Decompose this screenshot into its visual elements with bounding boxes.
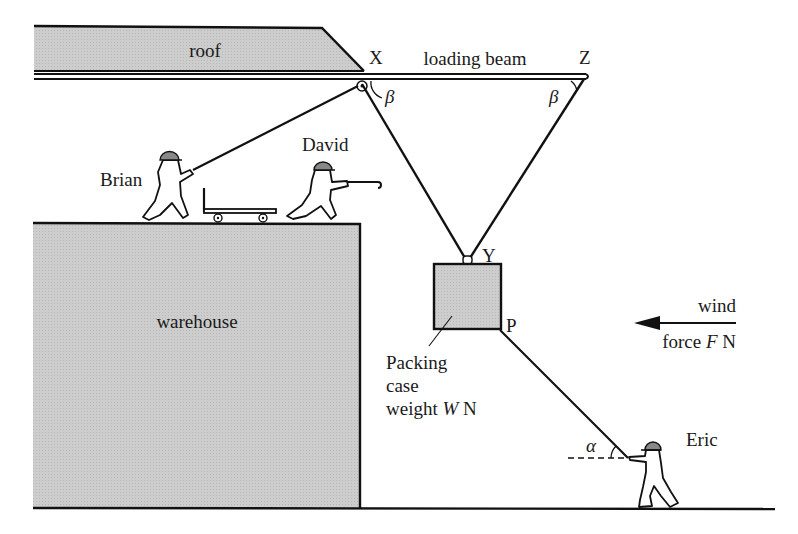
point-p-label: P [506, 315, 517, 336]
rope-eric [500, 330, 628, 458]
person-david-icon: David [287, 134, 381, 219]
person-brian-icon: Brian [100, 152, 193, 220]
wind-force-label: force F N [662, 331, 736, 352]
case-label-line3: weight W N [386, 398, 477, 419]
ring-y [463, 256, 472, 264]
loading-beam-label: loading beam [424, 48, 527, 69]
eric-label: Eric [686, 429, 718, 450]
david-label: David [302, 134, 349, 155]
person-eric-icon: Eric [629, 429, 718, 507]
angle-arc-x [371, 81, 382, 98]
ground-line [33, 508, 775, 509]
warehouse: warehouse [33, 223, 360, 508]
brian-label: Brian [100, 169, 143, 190]
roof: roof [34, 26, 364, 71]
diagram-canvas: roof loading beam X Z β β Y P Packing ca… [0, 0, 798, 534]
angle-alpha-label: α [586, 435, 597, 456]
rope-brian [193, 86, 358, 170]
point-x-label: X [369, 47, 383, 68]
angle-arc-z [571, 81, 577, 91]
angle-beta-z-label: β [548, 86, 559, 107]
angle-arc-alpha [611, 446, 616, 458]
rope-zy [470, 79, 584, 258]
roof-label: roof [189, 40, 221, 61]
angle-beta-x-label: β [384, 86, 395, 107]
case-label-line2: case [386, 375, 419, 396]
case-label-line1: Packing [386, 352, 448, 373]
wind-label: wind [698, 295, 737, 316]
rope-xy [362, 84, 465, 258]
trolley-icon [204, 188, 276, 222]
packing-case [434, 264, 501, 329]
wind-arrow-icon [634, 316, 736, 330]
point-z-label: Z [579, 47, 591, 68]
warehouse-label: warehouse [156, 311, 237, 332]
